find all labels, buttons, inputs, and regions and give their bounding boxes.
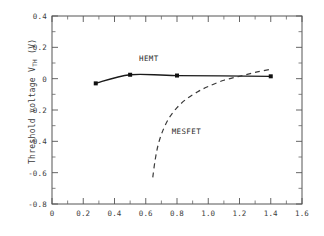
y-tick-label: -0.8 xyxy=(28,200,47,209)
x-tick-label: 0.6 xyxy=(139,209,153,218)
series-label-mesfet: MESFET xyxy=(172,127,202,136)
x-axis-tick-labels: 00.20.40.60.81.01.21.41.6 xyxy=(50,209,310,218)
x-tick-label: 0.8 xyxy=(170,209,184,218)
x-tick-label: 1.2 xyxy=(232,209,246,218)
series-curve-mesfet xyxy=(153,69,271,177)
x-tick-label: 0.4 xyxy=(107,209,121,218)
x-tick-label: 0.2 xyxy=(76,209,90,218)
y-tick-label: 0.4 xyxy=(33,12,47,21)
data-series-group xyxy=(96,69,271,177)
x-tick-label: 1.0 xyxy=(201,209,215,218)
y-tick-label: 0 xyxy=(42,75,47,84)
y-axis-major-ticks xyxy=(52,16,302,204)
y-axis-minor-ticks xyxy=(52,32,302,189)
y-tick-label: -0.6 xyxy=(28,169,47,178)
chart-figure: Threshold voltage VTH (V) 00.20.40.60.81… xyxy=(0,0,324,236)
plot-area: 00.20.40.60.81.01.21.41.6 -0.8-0.6-0.4-0… xyxy=(0,0,324,236)
data-point-marker xyxy=(128,73,132,77)
x-axis-major-ticks xyxy=(52,16,302,204)
x-tick-label: 0 xyxy=(50,209,55,218)
series-curve-hemt xyxy=(96,74,271,83)
x-tick-label: 1.6 xyxy=(295,209,309,218)
series-label-hemt: HEMT xyxy=(139,54,159,63)
x-axis-minor-ticks xyxy=(68,16,287,204)
data-markers-group xyxy=(94,73,273,86)
data-point-marker xyxy=(94,81,98,85)
data-point-marker xyxy=(175,74,179,78)
x-tick-label: 1.4 xyxy=(264,209,278,218)
y-axis-tick-labels: -0.8-0.6-0.4-0.200.20.4 xyxy=(28,12,47,209)
y-tick-label: -0.4 xyxy=(28,137,47,146)
y-tick-label: -0.2 xyxy=(28,106,47,115)
y-tick-label: 0.2 xyxy=(33,43,47,52)
axis-frame xyxy=(52,16,302,204)
data-point-marker xyxy=(269,74,273,78)
